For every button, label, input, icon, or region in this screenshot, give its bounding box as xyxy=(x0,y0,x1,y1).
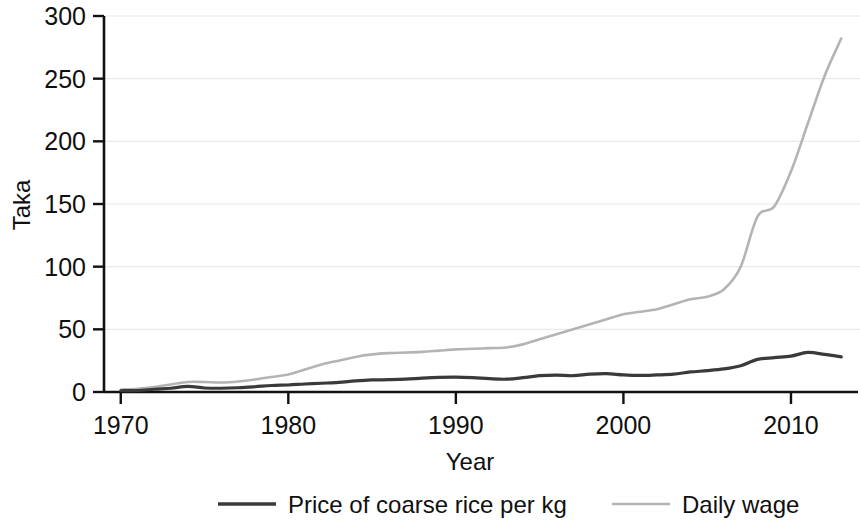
y-tick-group xyxy=(93,16,104,392)
y-tick-label: 100 xyxy=(44,253,86,281)
x-tick-label: 1990 xyxy=(428,411,484,439)
y-tick-label: 0 xyxy=(72,378,86,406)
x-tick-label: 1980 xyxy=(260,411,316,439)
y-tick-label: 300 xyxy=(44,2,86,30)
series-line xyxy=(121,352,841,390)
x-tick-group xyxy=(121,392,791,404)
y-tick-label-group: 050100150200250300 xyxy=(44,2,86,406)
chart-container: 050100150200250300 19701980199020002010 … xyxy=(0,0,860,523)
y-axis: 050100150200250300 xyxy=(44,2,104,406)
x-axis-title: Year xyxy=(446,448,495,475)
y-tick-label: 50 xyxy=(58,315,86,343)
gridlines xyxy=(104,16,860,392)
x-axis: 19701980199020002010 xyxy=(93,392,858,439)
y-tick-label: 250 xyxy=(44,65,86,93)
series-line xyxy=(121,39,841,390)
chart-legend: Price of coarse rice per kgDaily wage xyxy=(218,491,799,518)
y-axis-title: Taka xyxy=(8,179,35,230)
legend-label: Price of coarse rice per kg xyxy=(288,491,567,518)
y-tick-label: 200 xyxy=(44,127,86,155)
x-tick-label-group: 19701980199020002010 xyxy=(93,411,819,439)
y-tick-label: 150 xyxy=(44,190,86,218)
plot-series xyxy=(121,39,841,391)
x-tick-label: 1970 xyxy=(93,411,149,439)
x-tick-label: 2000 xyxy=(596,411,652,439)
x-tick-label: 2010 xyxy=(763,411,819,439)
line-chart: 050100150200250300 19701980199020002010 … xyxy=(0,0,860,523)
legend-label: Daily wage xyxy=(682,491,799,518)
